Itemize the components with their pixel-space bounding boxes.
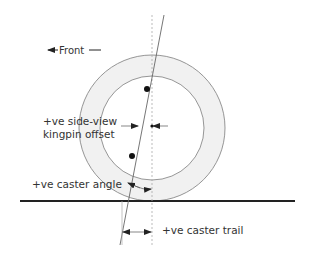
front-label: Front bbox=[59, 44, 84, 57]
offset-label-line1: +ve side-view bbox=[43, 115, 117, 128]
kingpin-axis bbox=[120, 15, 164, 245]
caster-angle-label: +ve caster angle bbox=[32, 178, 122, 191]
upper-kingpin-point bbox=[144, 86, 150, 92]
caster-trail-label: +ve caster trail bbox=[162, 224, 243, 237]
side-view-kingpin-offset-label: +ve side-view kingpin offset bbox=[43, 115, 117, 141]
offset-label-line2: kingpin offset bbox=[43, 128, 117, 141]
lower-kingpin-point bbox=[129, 153, 135, 159]
